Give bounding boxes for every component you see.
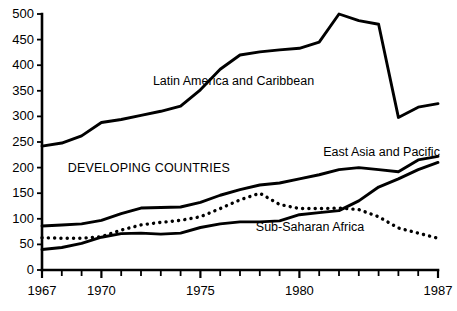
- x-tick-1970: 1970: [79, 283, 123, 298]
- y-tick-400: 400: [0, 57, 34, 72]
- y-tick-350: 350: [0, 83, 34, 98]
- y-tick-200: 200: [0, 160, 34, 175]
- y-tick-100: 100: [0, 211, 34, 226]
- x-tick-1967: 1967: [20, 283, 64, 298]
- y-tick-0: 0: [0, 262, 34, 277]
- x-tick-1975: 1975: [178, 283, 222, 298]
- y-tick-500: 500: [0, 6, 34, 21]
- y-tick-450: 450: [0, 32, 34, 47]
- east-asia-label: East Asia and Pacific: [323, 145, 440, 159]
- y-tick-250: 250: [0, 134, 34, 149]
- x-tick-1987: 1987: [416, 283, 457, 298]
- x-tick-1980: 1980: [277, 283, 321, 298]
- y-tick-50: 50: [0, 236, 34, 251]
- chart-series-layer: [42, 14, 438, 250]
- series-line-3: [42, 193, 438, 238]
- y-tick-150: 150: [0, 185, 34, 200]
- series-line-2: [42, 162, 438, 249]
- sub-saharan-africa-label: Sub-Saharan Africa: [256, 220, 364, 234]
- y-tick-300: 300: [0, 108, 34, 123]
- developing-countries-label: DEVELOPING COUNTRIES: [68, 161, 230, 175]
- latin-america-label: Latin America and Caribbean: [153, 74, 314, 88]
